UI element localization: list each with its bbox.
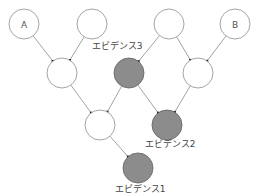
edge-E3-E2 [138,85,158,113]
node-a-label: A [21,20,28,30]
edge-B-M3 [207,36,226,61]
nodes-group [9,9,250,183]
edge-A-M1 [33,36,53,61]
evidence3-label: エビデンス3 [92,40,143,51]
edge-M1-L1 [71,85,91,113]
edge-M3-E2 [175,86,191,112]
node-M3 [183,58,213,88]
evidence-node-E1 [123,153,153,183]
edge-L1-E1 [110,136,128,157]
node-M1 [47,58,77,88]
node-T3 [154,9,184,39]
evidence-node-E3 [114,58,144,88]
evidence2-label: エビデンス2 [145,138,196,149]
node-b-label: B [232,20,238,30]
evidence-node-E2 [152,110,182,140]
bayesian-network-diagram: A B エビデンス3 エビデンス2 エビデンス1 [0,0,258,196]
edge-T2-M1 [70,37,84,60]
node-T2 [77,9,107,39]
edge-E3-L1 [107,86,121,112]
evidence1-label: エビデンス1 [115,183,166,194]
node-L1 [85,110,115,140]
edges-group [33,36,226,158]
edge-T3-M3 [177,37,191,60]
